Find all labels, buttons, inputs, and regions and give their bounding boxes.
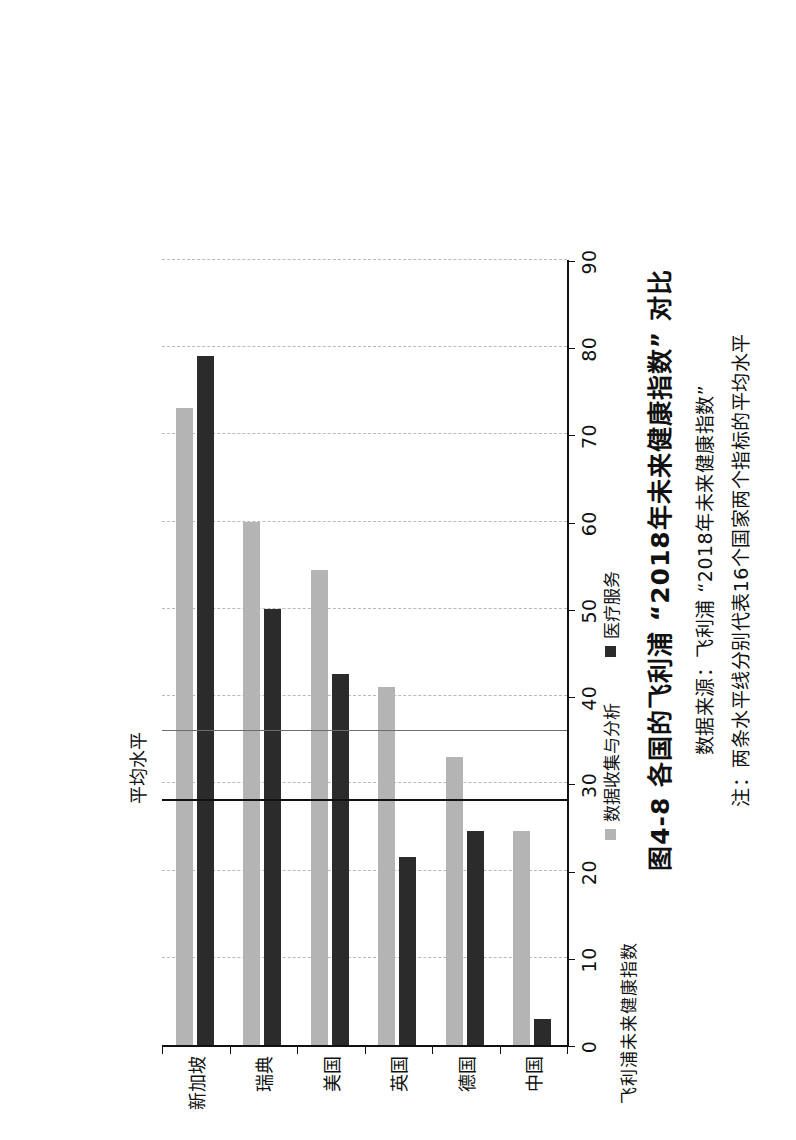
legend-label-collect: 数据收集与分析 bbox=[598, 703, 623, 822]
bar-collect bbox=[311, 570, 328, 1045]
category-axis-tick bbox=[365, 1046, 366, 1054]
value-axis-tick-label: 30 bbox=[578, 773, 600, 798]
bar-care bbox=[264, 609, 281, 1045]
axes-box bbox=[162, 260, 567, 1047]
plot-area: 飞利浦未来健康指数 0102030405060708090 新加坡瑞典美国英国德… bbox=[150, 237, 580, 1112]
figure-note: 注：两条水平线分别代表16个国家两个指标的平均水平 bbox=[726, 0, 753, 1140]
bar-care bbox=[197, 356, 214, 1045]
category-label-0: 新加坡 bbox=[183, 1056, 209, 1112]
bar-care bbox=[399, 857, 416, 1045]
figure-inner: 飞利浦未来健康指数 0102030405060708090 新加坡瑞典美国英国德… bbox=[0, 0, 796, 1140]
gridline bbox=[162, 607, 567, 609]
value-axis-tick bbox=[567, 959, 575, 960]
value-axis-tick bbox=[567, 523, 575, 524]
figure-source: 数据来源：飞利浦 “2018年未来健康指数” bbox=[690, 0, 717, 1140]
gridline bbox=[162, 694, 567, 696]
category-label-4: 德国 bbox=[453, 1056, 479, 1112]
category-axis-tick bbox=[567, 1046, 568, 1054]
value-axis-tick-label: 70 bbox=[578, 424, 600, 449]
category-axis-tick bbox=[162, 1046, 163, 1054]
bar-care bbox=[467, 831, 484, 1045]
category-axis-tick bbox=[230, 1046, 231, 1054]
bar-collect bbox=[176, 408, 193, 1045]
value-axis-tick bbox=[567, 1046, 575, 1047]
figure-title: 图4-8 各国的飞利浦 “2018年未来健康指数” 对比 bbox=[640, 0, 676, 1140]
reference-line-1 bbox=[162, 799, 567, 801]
legend-item-care: 医疗服务 bbox=[598, 571, 623, 657]
value-axis-tick-label: 40 bbox=[578, 686, 600, 711]
gridline bbox=[162, 432, 567, 434]
category-label-5: 中国 bbox=[520, 1056, 546, 1112]
category-axis-tick bbox=[297, 1046, 298, 1054]
legend-item-collect: 数据收集与分析 bbox=[598, 703, 623, 840]
gridline bbox=[162, 956, 567, 958]
rotated-figure-canvas: 飞利浦未来健康指数 0102030405060708090 新加坡瑞典美国英国德… bbox=[0, 0, 796, 1140]
gridline bbox=[162, 258, 567, 260]
bar-collect bbox=[513, 831, 530, 1045]
value-axis-tick bbox=[567, 784, 575, 785]
category-axis-tick bbox=[500, 1046, 501, 1054]
value-axis-tick bbox=[567, 348, 575, 349]
bar-care bbox=[534, 1019, 551, 1045]
value-axis-tick bbox=[567, 435, 575, 436]
value-axis-tick-label: 0 bbox=[578, 1041, 600, 1054]
legend-swatch-icon bbox=[605, 829, 616, 840]
reference-line-0 bbox=[162, 730, 567, 731]
value-axis-line bbox=[567, 260, 569, 1047]
category-label-3: 英国 bbox=[385, 1056, 411, 1112]
category-label-1: 瑞典 bbox=[250, 1056, 276, 1112]
category-label-2: 美国 bbox=[318, 1056, 344, 1112]
value-axis-tick bbox=[567, 261, 575, 262]
value-axis-tick bbox=[567, 872, 575, 873]
value-axis-tick-label: 80 bbox=[578, 337, 600, 362]
value-axis-tick-label: 90 bbox=[578, 249, 600, 274]
value-axis-tick-label: 60 bbox=[578, 511, 600, 536]
average-level-annotation: 平均水平 bbox=[124, 732, 150, 804]
category-axis-tick bbox=[432, 1046, 433, 1054]
legend-swatch-icon bbox=[605, 646, 616, 657]
value-axis-tick-label: 20 bbox=[578, 860, 600, 885]
gridline bbox=[162, 781, 567, 783]
value-axis-tick-label: 50 bbox=[578, 598, 600, 623]
gridline bbox=[162, 345, 567, 347]
caption-block: 图4-8 各国的飞利浦 “2018年未来健康指数” 对比 数据来源：飞利浦 “2… bbox=[640, 0, 762, 1140]
bar-collect bbox=[378, 687, 395, 1045]
value-axis-tick bbox=[567, 610, 575, 611]
gridline bbox=[162, 520, 567, 522]
value-axis-title: 飞利浦未来健康指数 bbox=[615, 942, 640, 1104]
chart-legend: 数据收集与分析 医疗服务 bbox=[598, 571, 623, 840]
value-axis-tick bbox=[567, 697, 575, 698]
gridline bbox=[162, 869, 567, 871]
value-axis-tick-label: 10 bbox=[578, 947, 600, 972]
legend-label-care: 医疗服务 bbox=[598, 571, 623, 639]
bar-collect bbox=[243, 522, 260, 1045]
